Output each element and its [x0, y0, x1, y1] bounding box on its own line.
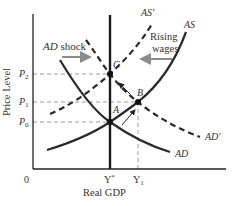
y1-tick-label: Y1 — [133, 174, 144, 187]
ad-label: AD — [174, 148, 189, 159]
point-a — [107, 119, 113, 125]
as-prime-label: AS' — [140, 7, 155, 18]
p2-tick-label: P2 — [18, 68, 29, 81]
rising-wages-label-line2: wages — [152, 43, 178, 54]
point-b-label: B — [137, 87, 143, 98]
rising-wages-label-line1: Rising — [150, 31, 178, 42]
ystar-tick-label: Y* — [104, 173, 115, 185]
as-ad-diagram: AD shock Rising wages AS' AS AD' AD A B … — [0, 0, 233, 206]
x-axis-title: Real GDP — [83, 187, 126, 198]
point-c-label: C — [113, 59, 120, 70]
ad-prime-label: AD' — [204, 131, 221, 142]
point-c — [107, 71, 113, 77]
ad-shock-word: shock — [58, 40, 87, 52]
point-a-label: A — [112, 104, 120, 115]
p1-tick-label: P1 — [18, 96, 29, 109]
p0-tick-label: P0 — [18, 116, 29, 129]
ad-shock-label: AD shock — [42, 40, 87, 52]
b-to-c-arrow-icon — [119, 83, 130, 94]
as-label: AS — [183, 19, 195, 30]
y-axis-title: Price Level — [1, 68, 12, 116]
origin-label: 0 — [24, 174, 29, 185]
point-b — [135, 99, 141, 105]
